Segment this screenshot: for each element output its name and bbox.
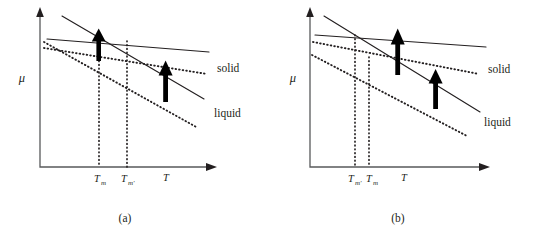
diagram-canvas: μ T solid liquid T m T m′	[0, 0, 555, 241]
panel-a-y-axis-label: μ	[18, 71, 25, 85]
panel-b-tick-label-Tm-prime: T m′	[348, 173, 362, 187]
panel-a-tick-Tm-subscript: m	[101, 179, 106, 187]
panel-a-solid-phase-shifted-line	[44, 48, 207, 74]
panel-b-liquid-label: liquid	[484, 116, 511, 129]
panel-a-tick-label-Tm: T m	[94, 173, 106, 187]
panel-a: μ T solid liquid T m T m′	[18, 7, 241, 225]
panel-b-shift-arrow-left	[391, 29, 405, 76]
panel-b-tick-label-Tm: T m	[366, 173, 378, 187]
panel-a-axes	[40, 14, 210, 167]
panel-a-y-axis-arrowhead	[36, 7, 44, 17]
panel-b-y-axis-arrowhead	[306, 7, 314, 17]
panel-b-tick-Tm-prime-base: T	[348, 173, 355, 184]
figure-container: μ T solid liquid T m T m′	[0, 0, 555, 241]
panel-a-liquid-label: liquid	[214, 107, 241, 120]
panel-b-tick-Tm-base: T	[366, 173, 373, 184]
panel-b-shift-arrow-right	[429, 69, 443, 109]
panel-b-solid-label: solid	[488, 63, 511, 75]
panel-a-liquid-phase-shifted-line	[44, 42, 198, 128]
panel-a-liquid-phase-line	[62, 16, 204, 99]
panel-a-tick-Tm-base: T	[94, 173, 101, 184]
panel-b-x-axis-arrowhead	[479, 163, 490, 171]
panel-a-solid-phase-line	[47, 39, 209, 52]
panel-b-tick-Tm-prime-subscript: m′	[355, 179, 362, 187]
panel-b: μ T solid liquid T m′ T m	[289, 7, 511, 225]
panel-b-x-axis-label: T	[401, 172, 408, 183]
panel-b-tick-Tm-subscript: m	[373, 179, 378, 187]
panel-b-y-axis-label: μ	[289, 71, 296, 85]
panel-a-x-axis-arrowhead	[206, 163, 217, 171]
panel-a-tick-label-Tm-prime: T m′	[121, 173, 135, 187]
panel-a-x-axis-label: T	[163, 172, 170, 183]
panel-b-caption: (b)	[391, 212, 405, 225]
panel-a-tick-Tm-prime-base: T	[121, 173, 128, 184]
panel-b-liquid-phase-line	[324, 16, 480, 112]
panel-a-caption: (a)	[119, 212, 132, 225]
panel-a-solid-label: solid	[217, 62, 240, 74]
panel-a-tick-Tm-prime-subscript: m′	[128, 179, 135, 187]
